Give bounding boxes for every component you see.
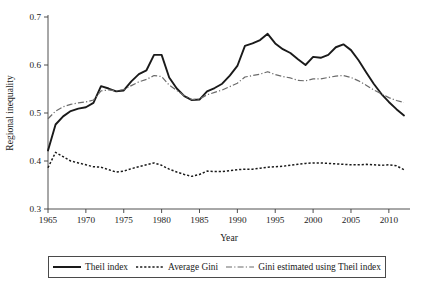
chart-legend: Theil indexAverage GiniGini estimated us… — [48, 256, 386, 278]
x-tick-label: 1975 — [115, 215, 134, 225]
x-tick-label: 1985 — [190, 215, 209, 225]
legend-item-label: Average Gini — [168, 262, 218, 272]
legend-item[interactable]: Average Gini — [136, 262, 218, 272]
legend-item-label: Gini estimated using Theil index — [258, 262, 381, 272]
series-line-theil-index — [48, 34, 404, 151]
y-tick-label: 0.7 — [30, 12, 42, 22]
x-tick-label: 1990 — [228, 215, 247, 225]
y-axis-title: Regional inequality — [4, 75, 15, 151]
x-tick-label: 2005 — [342, 215, 361, 225]
chart-series-group — [48, 34, 404, 177]
x-tick-label: 1995 — [266, 215, 285, 225]
legend-swatch-solid — [53, 263, 81, 271]
x-tick-label: 1980 — [152, 215, 171, 225]
legend-item[interactable]: Gini estimated using Theil index — [226, 262, 381, 272]
x-tick-label: 1970 — [77, 215, 96, 225]
x-tick-label: 2010 — [380, 215, 399, 225]
y-tick-label: 0.3 — [30, 204, 42, 214]
x-axis-ticks: 1965197019751980198519901995200020052010 — [39, 209, 399, 225]
legend-swatch-dash-dot — [226, 263, 254, 271]
y-tick-label: 0.5 — [30, 108, 42, 118]
legend-item[interactable]: Theil index — [53, 262, 128, 272]
x-tick-label: 1965 — [39, 215, 58, 225]
series-line-average-gini — [48, 152, 404, 176]
y-axis-ticks: 0.30.40.50.60.7 — [30, 12, 48, 214]
y-tick-label: 0.4 — [30, 156, 42, 166]
legend-swatch-dotted — [136, 263, 164, 271]
x-axis-title: Year — [220, 232, 238, 243]
legend-item-label: Theil index — [85, 262, 128, 272]
y-tick-label: 0.6 — [30, 60, 42, 70]
x-tick-label: 2000 — [304, 215, 323, 225]
line-chart-plot: 0.30.40.50.60.7 196519701975198019851990… — [0, 0, 425, 290]
chart-figure: 0.30.40.50.60.7 196519701975198019851990… — [0, 0, 425, 290]
